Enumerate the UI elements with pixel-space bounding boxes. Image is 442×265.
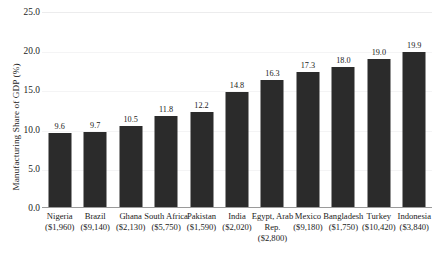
bar-value-label: 14.8	[219, 81, 255, 90]
y-tick-label: 10.0	[8, 125, 40, 135]
plot-area: 9.69.710.511.812.214.816.317.318.019.019…	[42, 12, 432, 208]
bar-value-label: 17.3	[290, 61, 326, 70]
y-tick-label: 25.0	[8, 7, 40, 17]
x-axis-line	[42, 207, 432, 208]
bar	[119, 126, 142, 208]
bar-value-label: 12.2	[184, 101, 220, 110]
bar	[84, 132, 107, 208]
bar	[48, 133, 71, 208]
bar	[226, 92, 249, 208]
bar-value-label: 19.9	[396, 41, 432, 50]
y-tick-label: 5.0	[8, 164, 40, 174]
bar-group: 9.6	[42, 13, 77, 208]
bar-group: 10.5	[113, 13, 148, 208]
bar-group: 17.3	[290, 13, 325, 208]
x-axis-category-labels: Nigeria($1,960)Brazil($9,140)Ghana($2,13…	[42, 211, 432, 263]
bar-value-label: 9.6	[42, 122, 78, 131]
bar-group: 9.7	[78, 13, 113, 208]
bar	[296, 72, 319, 208]
bar-group: 16.3	[255, 13, 290, 208]
x-axis-label: Indonesia($3,840)	[391, 211, 437, 233]
bar-group: 19.9	[397, 13, 432, 208]
bar-value-label: 11.8	[148, 105, 184, 114]
bar	[367, 59, 390, 208]
x-axis-category-sublabel: ($3,840)	[391, 222, 437, 233]
bar	[332, 67, 355, 208]
bar-group: 18.0	[326, 13, 361, 208]
y-tick-label: 15.0	[8, 85, 40, 95]
bar-chart: Manufacturing Share of GDP (%) 25.020.01…	[0, 0, 442, 265]
bar-value-label: 16.3	[254, 69, 290, 78]
bar	[403, 52, 426, 208]
bar-value-label: 10.5	[113, 115, 149, 124]
y-axis-tick-labels: 25.020.015.010.05.00.0	[0, 0, 40, 265]
bar-group: 11.8	[149, 13, 184, 208]
bar-group: 19.0	[361, 13, 396, 208]
y-tick-label: 0.0	[8, 203, 40, 213]
y-tick-label: 20.0	[8, 46, 40, 56]
x-axis-category-sublabel: ($2,800)	[249, 233, 295, 244]
x-axis-category-name: Indonesia	[391, 211, 437, 222]
bar-value-label: 18.0	[325, 56, 361, 65]
bar-series: 9.69.710.511.812.214.816.317.318.019.019…	[42, 13, 432, 208]
bar	[261, 80, 284, 208]
bar-group: 12.2	[184, 13, 219, 208]
bar-value-label: 19.0	[361, 48, 397, 57]
bar-group: 14.8	[220, 13, 255, 208]
bar	[190, 112, 213, 208]
bar	[155, 116, 178, 209]
bar-value-label: 9.7	[77, 121, 113, 130]
